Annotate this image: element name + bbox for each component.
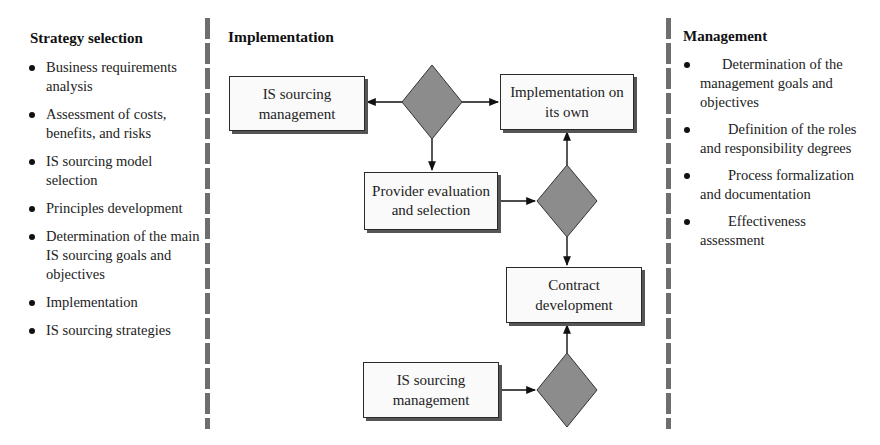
box-contract-development: Contract development — [506, 267, 642, 323]
bullet-icon — [29, 112, 35, 118]
list-item-label: Assessment of costs, benefits, and risks — [46, 106, 166, 141]
management-title: Management — [683, 28, 767, 45]
decision-diamond-middle — [537, 165, 597, 237]
box-is-sourcing-management-top: IS sourcing management — [229, 76, 365, 131]
list-item: Business requirements analysis — [24, 58, 202, 96]
strategy-selection-title: Strategy selection — [30, 30, 143, 47]
list-item: Definition of the roles and responsibili… — [680, 120, 860, 158]
list-item: Assessment of costs, benefits, and risks — [24, 105, 202, 143]
box-label: Provider evaluation and selection — [371, 182, 491, 220]
box-label: IS sourcing management — [380, 370, 482, 410]
list-item: Implementation — [24, 293, 202, 312]
bullet-icon — [29, 159, 35, 165]
box-is-sourcing-management-bottom: IS sourcing management — [363, 362, 499, 418]
bullet-icon — [684, 62, 690, 68]
strategy-selection-list: Business requirements analysis Assessmen… — [24, 58, 202, 349]
list-item: IS sourcing strategies — [24, 321, 202, 340]
bullet-icon — [684, 173, 690, 179]
list-item-label: IS sourcing model selection — [46, 153, 152, 188]
box-label: IS sourcing management — [236, 84, 358, 124]
decision-diamond-top — [402, 65, 462, 139]
list-item: Determination of the main IS sourcing go… — [24, 227, 202, 284]
list-item-label: Implementation — [46, 294, 138, 310]
list-item: Process formalization and documentation — [680, 166, 860, 204]
bullet-icon — [29, 234, 35, 240]
management-list: Determination of the management goals an… — [680, 55, 860, 258]
list-item: Principles development — [24, 199, 202, 218]
column-divider-right — [666, 18, 671, 429]
list-item-label: Effectiveness assessment — [680, 212, 860, 250]
list-item: IS sourcing model selection — [24, 152, 202, 190]
list-item-label: Principles development — [46, 200, 183, 216]
bullet-icon — [684, 127, 690, 133]
bullet-icon — [684, 219, 690, 225]
box-label: Implementation on its own — [507, 82, 627, 122]
list-item-label: IS sourcing strategies — [46, 322, 171, 338]
list-item: Effectiveness assessment — [680, 212, 860, 250]
box-provider-evaluation: Provider evaluation and selection — [364, 172, 498, 230]
list-item-label: Process formalization and documentation — [680, 166, 860, 204]
column-divider-left — [205, 18, 210, 429]
list-item-label: Determination of the management goals an… — [680, 55, 860, 112]
box-implementation-on-its-own: Implementation on its own — [500, 74, 634, 130]
box-label: Contract development — [527, 275, 621, 315]
bullet-icon — [29, 328, 35, 334]
bullet-icon — [29, 65, 35, 71]
bullet-icon — [29, 206, 35, 212]
list-item: Determination of the management goals an… — [680, 55, 860, 112]
list-item-label: Determination of the main IS sourcing go… — [46, 228, 199, 282]
bullet-icon — [29, 300, 35, 306]
list-item-label: Business requirements analysis — [46, 59, 177, 94]
decision-diamond-bottom — [537, 353, 597, 427]
implementation-title: Implementation — [228, 28, 334, 46]
list-item-label: Definition of the roles and responsibili… — [680, 120, 860, 158]
